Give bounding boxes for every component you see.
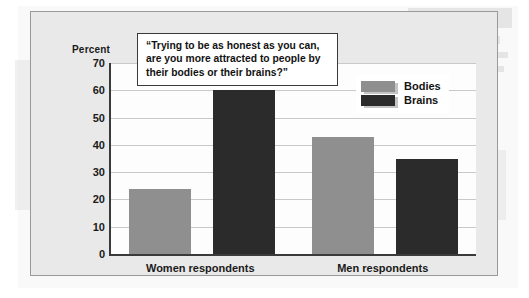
y-axis-tick-label: 10 <box>93 221 105 233</box>
y-axis-tick-label: 20 <box>93 193 105 205</box>
y-axis-tick-label: 70 <box>93 57 105 69</box>
bar-fill <box>396 159 458 255</box>
bar-bodies-men-respondents <box>312 137 374 254</box>
gridline <box>111 145 476 146</box>
y-axis-tick-label: 0 <box>99 248 105 260</box>
y-axis-title: Percent <box>72 44 110 55</box>
legend-item-brains: Brains <box>361 94 441 106</box>
chart-figure-box: Percent 010203040506070 “Trying to be as… <box>30 11 498 276</box>
y-axis-tick-label: 50 <box>93 112 105 124</box>
y-axis-tick-label: 60 <box>93 84 105 96</box>
y-axis-tick-label: 30 <box>93 166 105 178</box>
x-axis-category-label: Women respondents <box>109 262 292 274</box>
bar-fill <box>312 137 374 254</box>
legend-swatch-brains <box>361 95 395 106</box>
bar-brains-men-respondents <box>396 159 458 255</box>
bar-brains-women-respondents <box>213 90 275 254</box>
callout-quote-box: “Trying to be as honest as you can, are … <box>137 33 338 86</box>
legend-label: Brains <box>404 94 438 106</box>
legend-swatch-shadow <box>364 97 398 108</box>
plot-wrapper: Percent 010203040506070 “Trying to be as… <box>31 12 499 277</box>
bar-bodies-women-respondents <box>129 189 191 254</box>
legend-swatch-bodies <box>361 81 395 92</box>
chart-legend: BodiesBrains <box>356 74 449 113</box>
bar-fill <box>129 189 191 254</box>
x-axis-category-label: Men respondents <box>292 262 475 274</box>
legend-swatch-shadow <box>364 83 398 94</box>
gridline <box>111 118 476 119</box>
legend-label: Bodies <box>404 80 441 92</box>
legend-item-bodies: Bodies <box>361 80 441 92</box>
y-axis-tick-label: 40 <box>93 139 105 151</box>
bar-fill <box>213 90 275 254</box>
figure-root: Percent 010203040506070 “Trying to be as… <box>0 0 529 298</box>
